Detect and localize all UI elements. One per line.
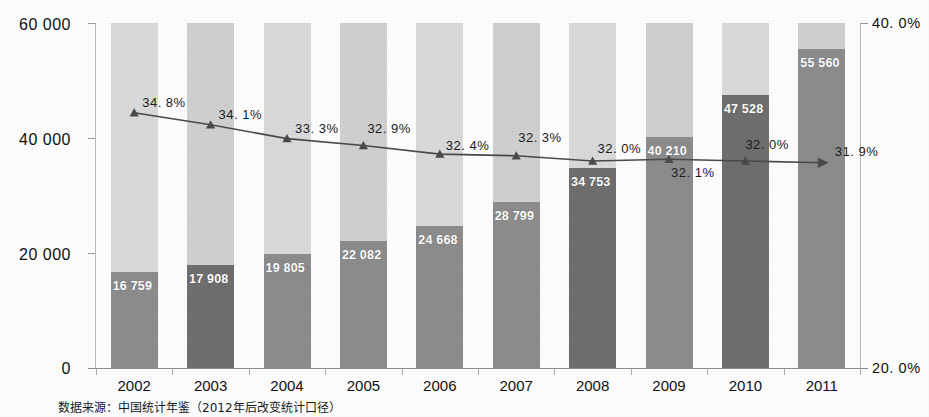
line-series [96, 23, 860, 368]
plot-area: 16 75917 90819 80522 08224 66828 79934 7… [96, 23, 860, 368]
y-axis-left-tick-label: 60 000 [19, 16, 71, 34]
line-value-label: 32. 4% [446, 138, 489, 153]
x-axis-tick-label: 2007 [500, 377, 533, 394]
x-axis-tick [707, 369, 708, 375]
y-axis-left-tick-label: 0 [62, 360, 71, 378]
x-axis-tick-label: 2009 [652, 377, 685, 394]
y-axis-right-tick-label: 40. 0% [872, 15, 921, 31]
x-axis-tick [249, 369, 250, 375]
x-axis-tick-label: 2003 [194, 377, 227, 394]
line-value-label: 33. 3% [295, 121, 338, 136]
y-axis-left-tick [88, 253, 95, 254]
y-axis-right-tick [861, 23, 868, 24]
y-axis-right-tick-label: 20. 0% [872, 360, 921, 376]
y-axis-left-tick-label: 20 000 [19, 246, 71, 264]
x-axis-tick [172, 369, 173, 375]
x-axis-tick-label: 2008 [576, 377, 609, 394]
chart-figure: 60 000 40 000 20 000 0 40. 0% 20. 0% 16 … [0, 0, 929, 417]
line-value-label: 31. 9% [835, 144, 878, 159]
line-arrow-head [818, 158, 829, 168]
x-axis-tick-label: 2010 [729, 377, 762, 394]
y-axis-left-tick-label: 40 000 [19, 131, 71, 149]
y-axis-left-tick [88, 138, 95, 139]
line-value-label: 32. 9% [367, 121, 410, 136]
x-axis-tick-label: 2004 [270, 377, 303, 394]
y-axis-left-tick [88, 23, 95, 24]
x-axis-tick [784, 369, 785, 375]
line-value-label: 34. 8% [142, 95, 185, 110]
x-axis-tick-label: 2005 [347, 377, 380, 394]
x-axis-tick-label: 2011 [806, 377, 838, 394]
x-axis-tick [325, 369, 326, 375]
x-axis-tick [402, 369, 403, 375]
x-axis-tick [478, 369, 479, 375]
x-axis-tick [631, 369, 632, 375]
line-value-label: 32. 0% [745, 137, 788, 152]
x-axis-tick-label: 2006 [423, 377, 456, 394]
x-axis-tick [96, 369, 97, 375]
line-value-label: 32. 3% [518, 130, 561, 145]
line-value-label: 32. 1% [671, 165, 714, 180]
source-note: 数据来源：中国统计年鉴（2012年后改变统计口径） [58, 398, 341, 415]
x-axis-tick [860, 369, 861, 375]
line-value-label: 32. 0% [598, 141, 641, 156]
line-marker [130, 108, 139, 116]
x-axis-tick-label: 2002 [118, 377, 151, 394]
y-axis-right-line [860, 23, 861, 369]
line-value-label: 34. 1% [219, 107, 262, 122]
x-axis-tick [554, 369, 555, 375]
